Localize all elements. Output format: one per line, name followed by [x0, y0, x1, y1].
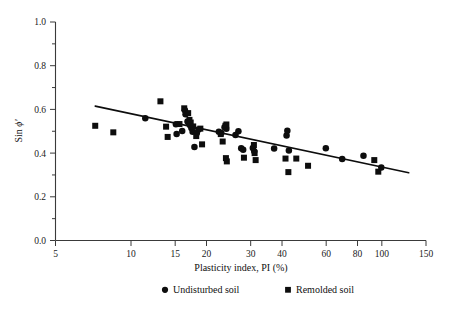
x-tick-label: 15 [170, 249, 180, 259]
data-point-square [185, 110, 191, 116]
y-tick-label: 0.8 [34, 61, 46, 71]
data-point-circle [173, 131, 180, 138]
data-point-circle [360, 152, 367, 159]
x-tick-label: 5 [53, 249, 58, 259]
data-point-square [163, 124, 169, 130]
y-axis-title-group: Sin ϕ′ [13, 119, 24, 143]
data-point-square [253, 157, 259, 163]
data-point-square [165, 134, 171, 140]
data-point-square [193, 133, 199, 139]
x-tick-label: 60 [321, 249, 331, 259]
data-point-circle [271, 145, 278, 152]
x-tick-label: 80 [353, 249, 363, 259]
y-axis-title: Sin ϕ′ [13, 119, 24, 143]
data-point-circle [323, 145, 330, 152]
data-point-square [157, 98, 163, 104]
data-point-square [305, 163, 311, 169]
x-tick-label: 10 [126, 249, 136, 259]
data-point-square [251, 142, 257, 148]
x-tick-label: 150 [419, 249, 434, 259]
data-point-square [283, 156, 289, 162]
data-point-square [110, 129, 116, 135]
data-point-square [241, 155, 247, 161]
figure-root: 0.00.20.40.60.81.0 510152030406080100150… [0, 0, 452, 314]
legend-marker-square [285, 287, 291, 293]
y-axis-title-prefix: Sin [13, 127, 24, 143]
data-point-square [199, 141, 205, 147]
data-point-square [371, 157, 377, 163]
data-point-square [223, 121, 229, 127]
data-point-square [252, 150, 258, 156]
y-tick-label: 0.6 [34, 105, 46, 115]
y-tick-label: 1.0 [34, 17, 46, 27]
data-point-square [293, 156, 299, 162]
y-tick-label: 0.2 [34, 192, 46, 202]
data-point-square [375, 169, 381, 175]
x-tick-label: 40 [277, 249, 287, 259]
y-axis-title-symbol: ϕ′ [13, 119, 24, 127]
data-point-circle [284, 128, 291, 135]
data-point-square [92, 123, 98, 129]
y-tick-label: 0.4 [34, 149, 46, 159]
data-point-circle [191, 144, 198, 151]
x-tick-label: 30 [246, 249, 256, 259]
scatter-chart: 0.00.20.40.60.81.0 510152030406080100150… [0, 0, 452, 314]
x-tick-label: 20 [202, 249, 212, 259]
data-point-square [220, 139, 226, 145]
legend-marker-circle [162, 287, 168, 293]
legend-label-remolded: Remolded soil [296, 284, 354, 295]
y-tick-label: 0.0 [34, 236, 46, 246]
x-axis-title: Plasticity index, PI (%) [194, 262, 287, 274]
legend-label-undisturbed: Undisturbed soil [173, 284, 240, 295]
data-point-circle [240, 147, 247, 154]
data-point-circle [179, 128, 186, 135]
x-tick-label: 100 [375, 249, 390, 259]
data-point-square [224, 158, 230, 164]
data-point-circle [235, 128, 242, 135]
data-point-square [285, 169, 291, 175]
